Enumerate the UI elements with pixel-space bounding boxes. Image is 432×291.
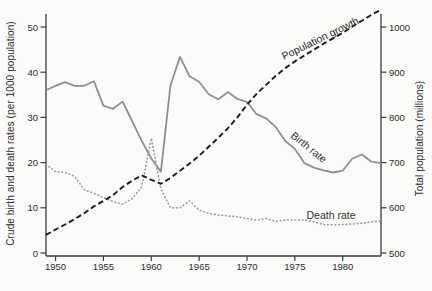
x-axis-tick-label: 1950 [45, 261, 66, 272]
x-axis-tick-label: 1970 [236, 261, 257, 272]
population-growth-line [46, 10, 381, 235]
x-axis-tick-label: 1955 [93, 261, 114, 272]
birth-rate-line [46, 57, 381, 173]
population-chart-figure: 0102030405050060070080090010001950195519… [0, 0, 432, 291]
chart-svg: 0102030405050060070080090010001950195519… [0, 0, 432, 291]
left-axis-tick-label: 40 [27, 67, 38, 78]
right-axis-tick-label: 800 [389, 112, 405, 123]
left-axis-tick-label: 20 [27, 157, 38, 168]
right-axis-tick-label: 900 [389, 67, 405, 78]
x-axis-tick-label: 1965 [189, 261, 210, 272]
right-axis-title: Total population (millions) [414, 39, 425, 239]
right-axis-tick-label: 600 [389, 202, 405, 213]
x-axis-tick-label: 1980 [332, 261, 353, 272]
x-axis-tick-label: 1975 [284, 261, 305, 272]
right-axis-tick-label: 700 [389, 157, 405, 168]
death-rate-label: Death rate [291, 209, 371, 221]
left-axis-tick-label: 50 [27, 22, 38, 33]
left-axis-tick-label: 30 [27, 112, 38, 123]
right-axis-tick-label: 1000 [389, 22, 410, 33]
left-axis-title: Crude birth and death rates (per 1000 po… [5, 0, 16, 274]
left-axis-tick-label: 10 [27, 202, 38, 213]
right-axis-tick-label: 500 [389, 248, 405, 259]
left-axis-tick-label: 0 [33, 248, 38, 259]
x-axis-tick-label: 1960 [141, 261, 162, 272]
